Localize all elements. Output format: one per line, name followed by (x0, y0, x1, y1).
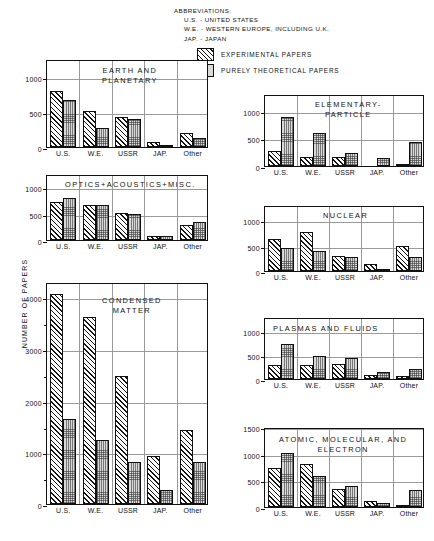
y-axis-title: NUMBER OF PAPERS (21, 244, 28, 364)
bar-optics-acoustics-misc-ussr-theo (128, 214, 141, 240)
x-tick-label: U.S. (274, 169, 288, 176)
bar-condensed-matter-we-exp (83, 317, 96, 504)
x-tick-label: JAP. (153, 243, 168, 250)
y-tick-label: 0 (256, 378, 265, 385)
legend-item-experimental: EXPERIMENTAL PAPERS (197, 48, 434, 61)
chart-title-earth-and-planetary: EARTH AND PLANETARY (102, 66, 158, 86)
plot-area-condensed-matter: 01000200030004000U.S.W.E.USSRJAP.OtherCO… (46, 283, 208, 505)
bar-atomic-molecular-and-electron-we-exp (300, 464, 313, 507)
bar-atomic-molecular-and-electron-we-theo (313, 476, 326, 507)
bar-atomic-molecular-and-electron-us-exp (268, 468, 281, 507)
bar-condensed-matter-jap-exp (147, 456, 160, 504)
bar-plasmas-and-fluids-ussr-theo (345, 358, 358, 379)
bar-earth-and-planetary-ussr-theo (128, 119, 141, 147)
y-tick-mark-minor (44, 325, 47, 326)
legend-item-theoretical: PURELY THEORETICAL PAPERS (197, 64, 434, 77)
bar-plasmas-and-fluids-we-theo (313, 356, 326, 379)
bar-optics-acoustics-misc-us-exp (50, 202, 63, 240)
y-tick-label: 1000 (243, 109, 265, 116)
x-tick-label: W.E. (305, 510, 321, 517)
bar-elementary-particle-us-theo (281, 117, 294, 166)
bar-plasmas-and-fluids-other-theo (409, 369, 422, 379)
chart-panel-nuclear: 05001000U.S.W.E.USSRJAP.OtherNUCLEAR (264, 206, 424, 272)
abbreviation-line-we: W.E. - WESTERN EUROPE, INCLUDING U.K. (184, 24, 434, 33)
x-tick-label: USSR (335, 274, 355, 281)
y-tick-mark-minor (44, 480, 47, 481)
x-gridline (79, 61, 80, 147)
x-tick-label: U.S. (274, 510, 288, 517)
bar-nuclear-we-theo (313, 251, 326, 271)
x-gridline (393, 207, 394, 271)
y-tick-label: 1000 (25, 186, 47, 193)
y-gridline (47, 351, 207, 352)
y-tick-label: 0 (256, 165, 265, 172)
x-gridline (177, 284, 178, 504)
y-tick-label: 500 (247, 354, 265, 361)
x-tick-label: U.S. (56, 150, 70, 157)
abbreviation-line-us: U.S. - UNITED STATES (184, 15, 434, 24)
y-tick-label: 1000 (25, 75, 47, 82)
x-tick-label: USSR (118, 150, 138, 157)
x-tick-label: JAP. (153, 150, 168, 157)
bar-plasmas-and-fluids-other-exp (396, 376, 409, 379)
x-tick-label: USSR (335, 382, 355, 389)
legend: EXPERIMENTAL PAPERS PURELY THEORETICAL P… (197, 48, 434, 80)
x-tick-label: W.E. (88, 243, 104, 250)
bar-condensed-matter-us-exp (50, 294, 63, 504)
chart-title-nuclear: NUCLEAR (323, 211, 368, 221)
y-tick-label: 0 (38, 146, 47, 153)
bar-elementary-particle-we-exp (300, 157, 313, 166)
y-tick-label: 1000 (243, 219, 265, 226)
bar-elementary-particle-ussr-exp (332, 157, 345, 166)
plot-area-optics-acoustics-misc: 05001000U.S.W.E.USSRJAP.OtherOPTICS+ACOU… (46, 175, 208, 241)
x-tick-label: JAP. (370, 382, 385, 389)
chart-panel-atomic-molecular-and-electron: 050010001500U.S.W.E.USSRJAP.OtherATOMIC,… (264, 428, 424, 508)
y-tick-label: 500 (247, 137, 265, 144)
bar-earth-and-planetary-ussr-exp (115, 117, 128, 147)
y-gridline (265, 222, 423, 223)
bar-earth-and-planetary-us-theo (63, 100, 76, 147)
x-tick-label: W.E. (305, 169, 321, 176)
y-tick-mark-minor (44, 377, 47, 378)
bar-nuclear-us-theo (281, 248, 294, 271)
y-tick-mark-minor (44, 429, 47, 430)
y-tick-label: 0 (256, 506, 265, 513)
bar-condensed-matter-we-theo (96, 440, 109, 504)
bar-atomic-molecular-and-electron-other-exp (396, 505, 409, 507)
y-tick-label: 0 (38, 239, 47, 246)
bar-optics-acoustics-misc-we-exp (83, 205, 96, 240)
abbreviation-line-jap: JAP. - JAPAN (184, 34, 434, 43)
y-tick-label: 0 (256, 270, 265, 277)
y-gridline (265, 429, 423, 430)
x-tick-label: U.S. (274, 382, 288, 389)
y-tick-label: 4000 (25, 296, 47, 303)
bar-atomic-molecular-and-electron-us-theo (281, 453, 294, 507)
chart-title-plasmas-and-fluids: PLASMAS AND FLUIDS (273, 324, 379, 334)
x-tick-label: W.E. (88, 150, 104, 157)
bar-optics-acoustics-misc-other-theo (193, 222, 206, 240)
bar-earth-and-planetary-we-theo (96, 128, 109, 147)
plot-area-elementary-particle: 05001000U.S.W.E.USSRJAP.OtherELEMENTARY-… (264, 95, 424, 167)
x-tick-label: USSR (335, 510, 355, 517)
bar-nuclear-other-exp (396, 246, 409, 271)
x-gridline (297, 96, 298, 166)
x-tick-label: JAP. (153, 507, 168, 514)
bar-atomic-molecular-and-electron-ussr-exp (332, 489, 345, 507)
bar-atomic-molecular-and-electron-ussr-theo (345, 486, 358, 507)
y-tick-label: 1000 (243, 330, 265, 337)
bar-plasmas-and-fluids-us-theo (281, 344, 294, 379)
bar-elementary-particle-ussr-theo (345, 153, 358, 166)
x-tick-label: Other (184, 150, 203, 157)
plot-area-nuclear: 05001000U.S.W.E.USSRJAP.OtherNUCLEAR (264, 206, 424, 272)
bar-condensed-matter-jap-theo (160, 490, 173, 504)
bar-nuclear-ussr-exp (332, 256, 345, 271)
x-tick-label: Other (400, 169, 419, 176)
chart-panel-elementary-particle: 05001000U.S.W.E.USSRJAP.OtherELEMENTARY-… (264, 95, 424, 167)
x-gridline (297, 207, 298, 271)
bar-elementary-particle-jap-theo (377, 158, 390, 166)
x-tick-label: JAP. (370, 510, 385, 517)
x-tick-label: USSR (335, 169, 355, 176)
bar-plasmas-and-fluids-we-exp (300, 365, 313, 379)
bar-earth-and-planetary-other-theo (193, 138, 206, 148)
bar-condensed-matter-other-exp (180, 430, 193, 504)
